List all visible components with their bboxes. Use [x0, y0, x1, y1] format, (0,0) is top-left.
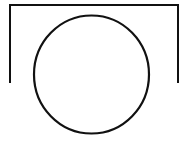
circle-shape — [34, 16, 149, 134]
bracket-frame — [10, 5, 178, 83]
diagram-svg — [0, 0, 189, 144]
diagram-canvas — [0, 0, 189, 144]
